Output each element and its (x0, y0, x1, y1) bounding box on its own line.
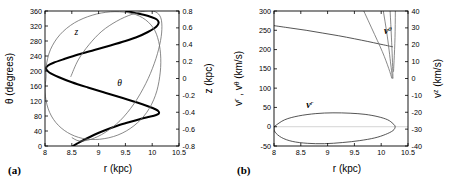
y-tick-label-right: 0 (412, 74, 416, 83)
y-tick-label-left: 40 (34, 127, 42, 136)
y-tick-label-right: -0.8 (183, 142, 195, 151)
y-tick-label-left: 160 (30, 82, 42, 91)
y-axis-title-right: vz (km/s) (432, 59, 443, 98)
y-tick-label-right: -20 (412, 108, 422, 117)
y-tick-label-right: 0 (183, 74, 187, 83)
y-tick-label-left: 240 (30, 52, 42, 61)
y-tick-label-right: -30 (412, 125, 422, 134)
y-tick-label-left: 150 (259, 64, 271, 73)
y-tick-label-left: -50 (261, 142, 271, 151)
y-tick-label-left: 0 (267, 122, 271, 131)
y-tick-label-right: 0.4 (183, 40, 193, 49)
y-tick-label-left: 250 (259, 26, 271, 35)
y-tick-label-right: 0.8 (183, 7, 193, 16)
y-tick-label-right: 30 (412, 23, 420, 32)
y-axis-title-seg: (km/s) (233, 51, 244, 82)
panel-a: 88.599.51010.504080120160200240280320360… (0, 0, 230, 190)
y-axis-title-right-text: vz (km/s) (432, 59, 443, 98)
y-tick-label-left: 280 (30, 37, 42, 46)
y-tick-label-left: 200 (30, 67, 42, 76)
x-tick-label: 10 (148, 148, 156, 157)
panel-a-plot: 88.599.51010.504080120160200240280320360… (0, 0, 230, 190)
y-axis-title-right: z (kpc) (203, 64, 214, 94)
x-tick-label: 9 (97, 148, 101, 157)
curve-v^z-branch-2 (274, 0, 392, 79)
x-tick-label: 8 (272, 148, 276, 157)
x-axis-title: r (kpc) (333, 163, 361, 174)
y-tick-label-right: 40 (412, 7, 420, 16)
y-axis-title-left: θ (degrees) (4, 53, 15, 104)
curve-label-v-r-sup: r (311, 99, 314, 107)
curve-label-z: z (73, 27, 78, 37)
y-tick-label-right: 20 (412, 40, 420, 49)
y-tick-label-left: 360 (30, 7, 42, 16)
y-tick-label-left: 0 (38, 142, 42, 151)
y-axis-title-seg: , (233, 90, 244, 98)
curve-label-theta: θ (117, 78, 122, 88)
curve-label-v-theta-sup: θ (388, 25, 392, 33)
y-tick-label-right: -0.2 (183, 91, 195, 100)
x-tick-label: 9.5 (349, 148, 359, 157)
x-tick-label: 8 (43, 148, 47, 157)
y-tick-label-left: 300 (259, 7, 271, 16)
x-tick-label: 8.5 (67, 148, 77, 157)
y-tick-label-right: -0.6 (183, 125, 195, 134)
x-tick-label: 10 (377, 148, 385, 157)
curve-z-loop-inner (71, 11, 162, 141)
y-tick-label-right: 10 (412, 57, 420, 66)
curves-group (274, 0, 396, 144)
x-tick-label: 8.5 (296, 148, 306, 157)
panel-b: 88.599.51010.5-50050100150200250300-40-3… (229, 0, 459, 190)
panel-tag: (b) (237, 164, 251, 177)
x-tick-label: 9.5 (120, 148, 130, 157)
y-tick-label-right: 0.6 (183, 23, 193, 32)
y-axis-title-left: vr , vθ (km/s) (233, 51, 244, 106)
curve-label-v-r: vr (306, 99, 313, 110)
y-axis-title-seg: (km/s) (432, 59, 443, 90)
y-tick-label-left: 120 (30, 97, 42, 106)
curve-v^z-branch-1 (275, 0, 392, 79)
x-axis-title: r (kpc) (104, 163, 132, 174)
x-tick-label: 9 (326, 148, 330, 157)
y-tick-label-right: -10 (412, 91, 422, 100)
y-tick-label-left: 100 (259, 84, 271, 93)
panel-tag: (a) (8, 164, 21, 177)
y-tick-label-left: 80 (34, 112, 42, 121)
curve-v^r (274, 113, 395, 144)
curves-group (45, 11, 162, 146)
y-axis-title-left-text: vr , vθ (km/s) (233, 51, 244, 106)
y-tick-label-right: -0.4 (183, 108, 195, 117)
figure-container: 88.599.51010.504080120160200240280320360… (0, 0, 459, 190)
y-tick-label-right: -40 (412, 142, 422, 151)
y-tick-label-left: 320 (30, 22, 42, 31)
y-tick-label-right: 0.2 (183, 57, 193, 66)
y-tick-label-left: 200 (259, 45, 271, 54)
axes-frame (45, 11, 179, 146)
y-tick-label-left: 50 (263, 103, 271, 112)
panel-b-plot: 88.599.51010.5-50050100150200250300-40-3… (229, 0, 459, 190)
